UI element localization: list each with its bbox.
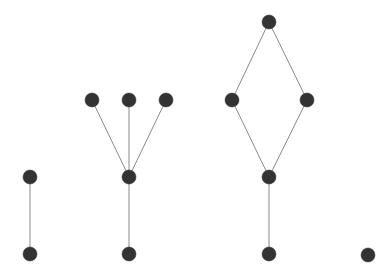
graph-node xyxy=(85,93,99,107)
graph-edge xyxy=(232,22,269,100)
edge-layer xyxy=(30,22,307,254)
graph-edge xyxy=(269,22,307,100)
graph-node xyxy=(122,93,136,107)
graph-node xyxy=(23,247,37,261)
graph-node xyxy=(225,93,239,107)
graph-edge xyxy=(129,100,166,177)
graph-node xyxy=(23,170,37,184)
graph-node xyxy=(262,15,276,29)
graph-edge xyxy=(232,100,269,177)
graph-node xyxy=(262,247,276,261)
graph-edge xyxy=(92,100,129,177)
graph-node xyxy=(361,248,375,262)
graph-diagram xyxy=(0,0,390,273)
graph-node xyxy=(159,93,173,107)
graph-node xyxy=(300,93,314,107)
node-layer xyxy=(23,15,375,262)
graph-node xyxy=(122,170,136,184)
graph-edge xyxy=(269,100,307,177)
graph-node xyxy=(122,247,136,261)
graph-node xyxy=(262,170,276,184)
